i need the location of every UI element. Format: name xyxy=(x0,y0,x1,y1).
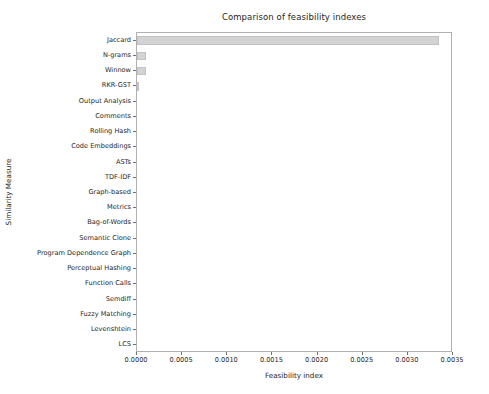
bar-row xyxy=(137,143,451,151)
bar-row xyxy=(137,128,451,136)
bar-row xyxy=(137,265,451,273)
y-tick-label: LCS xyxy=(119,340,131,348)
bar-row xyxy=(137,113,451,121)
y-tick-mark xyxy=(133,329,136,330)
y-tick-mark xyxy=(133,101,136,102)
y-tick-mark xyxy=(133,162,136,163)
x-tick-label: 0.0030 xyxy=(395,356,418,364)
x-tick-label: 0.0010 xyxy=(215,356,238,364)
y-tick-label: Fuzzy Matching xyxy=(80,310,131,318)
y-tick-label: Semantic Clone xyxy=(79,234,131,242)
bar-jaccard xyxy=(137,36,439,44)
x-tick-label: 0.0020 xyxy=(305,356,328,364)
bar-row xyxy=(137,295,451,303)
bar-row xyxy=(137,67,451,75)
bar-winnow xyxy=(137,67,146,75)
bar-row xyxy=(137,311,451,319)
y-tick-mark xyxy=(133,253,136,254)
figure: Comparison of feasibility indexes Simila… xyxy=(0,0,489,394)
y-tick-mark xyxy=(133,344,136,345)
y-tick-label: Function Calls xyxy=(85,279,131,287)
x-tick-mark xyxy=(136,352,137,355)
y-tick-label: Program Dependence Graph xyxy=(37,249,131,257)
y-tick-mark xyxy=(133,146,136,147)
y-tick-mark xyxy=(133,299,136,300)
bar-rkr-gst xyxy=(137,82,139,90)
x-axis-label: Feasibility index xyxy=(136,371,452,380)
bar-row xyxy=(137,158,451,166)
chart-title: Comparison of feasibility indexes xyxy=(136,12,452,22)
y-tick-label: Code Embeddings xyxy=(71,142,131,150)
y-tick-mark xyxy=(133,207,136,208)
x-tick-mark xyxy=(362,352,363,355)
bar-row xyxy=(137,82,451,90)
bar-row xyxy=(137,219,451,227)
y-tick-mark xyxy=(133,177,136,178)
bar-row xyxy=(137,280,451,288)
y-axis-label-container: Similarity Measure xyxy=(0,32,16,352)
x-tick-mark xyxy=(407,352,408,355)
y-tick-mark xyxy=(133,55,136,56)
x-tick-label: 0.0000 xyxy=(124,356,147,364)
y-tick-mark xyxy=(133,314,136,315)
bar-row xyxy=(137,97,451,105)
bar-row xyxy=(137,36,451,44)
x-tick-mark xyxy=(317,352,318,355)
x-tick-mark xyxy=(181,352,182,355)
y-tick-mark xyxy=(133,85,136,86)
plot-area xyxy=(136,32,452,352)
y-tick-label: Jaccard xyxy=(107,36,131,44)
x-tick-mark xyxy=(452,352,453,355)
y-tick-mark xyxy=(133,283,136,284)
y-tick-label: Graph-based xyxy=(88,188,131,196)
x-tick-label: 0.0035 xyxy=(440,356,463,364)
y-tick-label: Winnow xyxy=(105,66,131,74)
x-tick-label: 0.0005 xyxy=(170,356,193,364)
x-tick-label: 0.0025 xyxy=(350,356,373,364)
y-tick-label: N-grams xyxy=(103,51,131,59)
y-tick-label: RKR-GST xyxy=(102,81,131,89)
y-tick-label: Bag-of-Words xyxy=(87,218,131,226)
bar-n-grams xyxy=(137,52,146,60)
bar-row xyxy=(137,341,451,349)
y-axis-label: Similarity Measure xyxy=(4,159,13,226)
y-tick-mark xyxy=(133,40,136,41)
bar-row xyxy=(137,52,451,60)
x-tick-mark xyxy=(271,352,272,355)
y-tick-label: Levenshtein xyxy=(91,325,131,333)
y-tick-mark xyxy=(133,192,136,193)
bar-row xyxy=(137,235,451,243)
y-tick-mark xyxy=(133,70,136,71)
bar-row xyxy=(137,326,451,334)
y-tick-label: Output Analysis xyxy=(79,97,131,105)
bar-row xyxy=(137,174,451,182)
y-tick-label: Rolling Hash xyxy=(90,127,131,135)
bar-row xyxy=(137,250,451,258)
y-tick-mark xyxy=(133,116,136,117)
y-tick-label: Semdiff xyxy=(106,295,131,303)
y-tick-label: Perceptual Hashing xyxy=(67,264,131,272)
x-tick-label: 0.0015 xyxy=(260,356,283,364)
y-tick-label: TDF-IDF xyxy=(105,173,131,181)
bar-row xyxy=(137,204,451,212)
y-tick-mark xyxy=(133,222,136,223)
y-tick-label: Comments xyxy=(95,112,131,120)
y-tick-label: ASTs xyxy=(116,158,131,166)
bars-layer xyxy=(137,33,451,351)
y-tick-mark xyxy=(133,238,136,239)
y-tick-mark xyxy=(133,131,136,132)
bar-row xyxy=(137,189,451,197)
y-tick-label: Metrics xyxy=(107,203,131,211)
y-tick-mark xyxy=(133,268,136,269)
x-tick-mark xyxy=(226,352,227,355)
